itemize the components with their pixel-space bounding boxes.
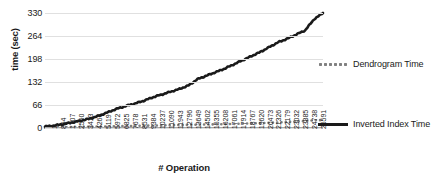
x-axis-tick-label: 854	[60, 118, 67, 129]
x-axis-tick-label: 5119	[105, 114, 112, 129]
x-axis-tick-label: 6825	[123, 114, 130, 129]
x-axis-tick-label: 19620	[258, 110, 265, 129]
x-axis-tick-label: 1	[51, 125, 58, 129]
x-axis-tick-label: 2560	[78, 114, 85, 129]
gridline	[45, 59, 323, 60]
gridline	[45, 36, 323, 37]
x-axis-tick-label: 22179	[284, 110, 291, 129]
x-axis-tick-label: 15355	[213, 110, 220, 129]
x-axis-tick-label: 17061	[231, 110, 238, 129]
x-axis-tick-label: 13649	[195, 110, 202, 129]
x-axis-tick-label: 10237	[159, 110, 166, 129]
x-axis-tick-label: 4266	[96, 114, 103, 129]
x-axis-tick-label: 16208	[222, 110, 229, 129]
x-axis-tick-label: 12796	[186, 110, 193, 129]
x-axis-tick-label: 21326	[275, 110, 282, 129]
y-axis-tick-label: 198	[14, 55, 42, 64]
x-axis-tick-label: 8531	[141, 114, 148, 129]
x-axis-tick-label: 5972	[114, 114, 121, 129]
y-axis-tick-label: 132	[14, 78, 42, 87]
legend-item-dendrogram-time[interactable]: Dendrogram Time	[318, 59, 424, 69]
gridline	[45, 13, 323, 14]
solid-line-swatch-icon	[318, 123, 348, 126]
dotted-line-swatch-icon	[318, 63, 348, 66]
x-axis-tick-label: 3413	[87, 114, 94, 129]
x-axis-tick-label: 17914	[240, 110, 247, 129]
gridline	[45, 105, 323, 106]
x-axis-tick-labels: 1854170725603413426651195972682576788531…	[45, 129, 323, 163]
y-axis-tick-label: 66	[14, 101, 42, 110]
x-axis-title: # Operation	[45, 162, 323, 173]
legend-label-dendrogram-time: Dendrogram Time	[353, 59, 424, 69]
x-axis-tick-label: 14502	[204, 110, 211, 129]
x-axis-tick-label: 7678	[132, 114, 139, 129]
x-axis-tick-label: 23885	[302, 110, 309, 129]
x-axis-tick-label: 9384	[150, 114, 157, 129]
legend-item-inverted-index-time[interactable]: Inverted Index Time	[318, 119, 430, 129]
chart-container: time (sec) 066132198264330 1854170725603…	[0, 0, 446, 183]
x-axis-tick-label: 18767	[249, 110, 256, 129]
x-axis-tick-label: 11090	[168, 111, 175, 129]
x-axis-tick-label: 11943	[177, 111, 184, 129]
legend-label-inverted-index-time: Inverted Index Time	[353, 119, 430, 129]
y-axis-tick-labels: 066132198264330	[14, 0, 42, 183]
y-axis-tick-label: 264	[14, 32, 42, 41]
gridline	[45, 82, 323, 83]
x-axis-tick-label: 1707	[69, 114, 76, 129]
y-axis-tick-label: 0	[14, 124, 42, 133]
x-axis-tick-label: 23032	[293, 110, 300, 129]
x-axis-tick-label: 20473	[267, 110, 274, 129]
y-axis-tick-label: 330	[14, 9, 42, 18]
